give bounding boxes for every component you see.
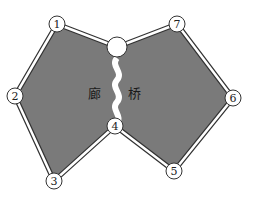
node-5: 5 xyxy=(166,163,182,179)
node-5-label: 5 xyxy=(171,165,178,178)
node-2-label: 2 xyxy=(12,90,19,103)
node-4-label: 4 xyxy=(112,120,119,133)
region-label-left: 廊 xyxy=(88,86,101,101)
diagram-canvas: 廊 桥 1 2 3 4 5 6 xyxy=(0,0,259,200)
bridge-wavy-line xyxy=(115,58,119,124)
node-6: 6 xyxy=(225,90,241,106)
node-1-label: 1 xyxy=(54,18,61,31)
node-4: 4 xyxy=(107,118,123,134)
region-label-right: 桥 xyxy=(128,86,141,101)
node-2: 2 xyxy=(7,88,23,104)
node-7-label: 7 xyxy=(174,18,181,31)
node-6-label: 6 xyxy=(230,92,237,105)
node-top xyxy=(107,37,127,57)
left-region xyxy=(15,24,117,181)
graph-diagram: 廊 桥 1 2 3 4 5 6 xyxy=(0,0,259,200)
node-3-label: 3 xyxy=(51,175,58,188)
node-1: 1 xyxy=(49,16,65,32)
node-7: 7 xyxy=(169,16,185,32)
node-3: 3 xyxy=(46,173,62,189)
